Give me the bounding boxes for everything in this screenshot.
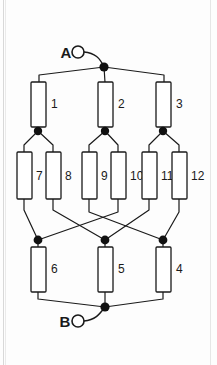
terminal-b-label: B	[60, 313, 71, 330]
terminal-a[interactable]: A	[61, 44, 84, 61]
wire-group-bottom-convergence	[38, 292, 163, 307]
resistor-label-r7: 7	[36, 169, 43, 183]
resistor-label-r6: 6	[51, 262, 58, 276]
resistor-label-r8: 8	[65, 169, 72, 183]
resistor-body-r4[interactable]	[156, 247, 171, 292]
wire-top-node-to-r3	[104, 67, 164, 82]
wire-r11-to-node-m2	[105, 199, 149, 240]
wire-group-lower-nodes-to-bottom	[38, 240, 163, 247]
resistor-label-r12: 12	[191, 169, 205, 183]
component-r9[interactable]: 9	[82, 152, 108, 199]
wire-r4-to-bottom-node	[105, 292, 163, 307]
resistor-body-r1[interactable]	[31, 82, 46, 127]
resistor-body-r8[interactable]	[46, 152, 61, 199]
wire-r10-to-node-m1	[38, 199, 118, 240]
resistor-body-r2[interactable]	[98, 82, 113, 127]
junction-dot-right-lower	[159, 236, 168, 245]
resistor-label-r5: 5	[118, 262, 125, 276]
component-r5[interactable]: 5	[98, 247, 125, 292]
component-r3[interactable]: 3	[156, 82, 183, 127]
resistor-label-r1: 1	[51, 97, 58, 111]
resistor-body-r10[interactable]	[111, 152, 126, 199]
resistor-label-r2: 2	[118, 97, 125, 111]
resistor-body-r9[interactable]	[82, 152, 97, 199]
junction-dot-top	[99, 62, 108, 71]
component-r12[interactable]: 12	[172, 152, 205, 199]
junction-dot-center-upper	[101, 127, 109, 135]
junction-dot-center-lower	[101, 236, 110, 245]
resistor-body-r7[interactable]	[17, 152, 32, 199]
component-r1[interactable]: 1	[31, 82, 58, 127]
wire-top-node-to-r1	[39, 67, 104, 82]
component-r7[interactable]: 7	[17, 152, 43, 199]
wire-group-crossing	[24, 199, 179, 240]
resistor-label-r9: 9	[101, 169, 108, 183]
wire-r7-to-node-m1	[24, 199, 38, 240]
junction-dot-right-upper	[159, 127, 167, 135]
terminal-a-label: A	[61, 44, 72, 61]
component-r6[interactable]: 6	[31, 247, 58, 292]
diagram-canvas: 1 2 3 7 8 9 10 11	[0, 0, 217, 365]
wire-group-middle-fanout	[24, 131, 179, 152]
component-r11[interactable]: 11	[142, 152, 174, 199]
component-r4[interactable]: 4	[156, 247, 183, 292]
resistor-body-r3[interactable]	[156, 82, 171, 127]
wire-r6-to-bottom-node	[38, 292, 105, 307]
junction-dot-bottom	[100, 302, 109, 311]
network-schematic: 1 2 3 7 8 9 10 11	[0, 0, 217, 365]
component-r2[interactable]: 2	[98, 82, 125, 127]
resistor-body-r5[interactable]	[98, 247, 113, 292]
terminal-a-circle-icon[interactable]	[72, 46, 84, 58]
resistor-body-r6[interactable]	[31, 247, 46, 292]
wire-r9-to-node-m3	[89, 199, 163, 240]
resistor-body-r12[interactable]	[172, 152, 187, 199]
resistor-body-r11[interactable]	[142, 152, 157, 199]
resistor-label-r3: 3	[176, 97, 183, 111]
junction-dot-left-upper	[34, 127, 42, 135]
terminal-b[interactable]: B	[60, 313, 84, 330]
terminal-b-circle-icon[interactable]	[72, 315, 84, 327]
component-r10[interactable]: 10	[111, 152, 144, 199]
resistor-label-r4: 4	[176, 262, 183, 276]
component-r8[interactable]: 8	[46, 152, 72, 199]
wire-r12-to-node-m3	[163, 199, 179, 240]
junction-dot-left-lower	[34, 236, 43, 245]
